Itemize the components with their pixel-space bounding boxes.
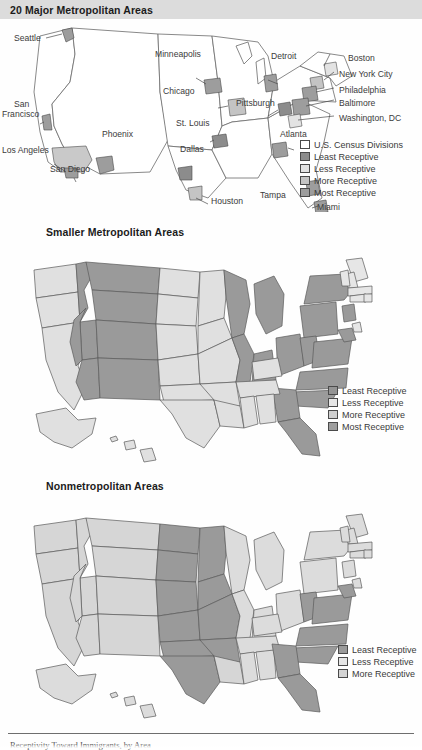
legend-item: U.S. Census Divisions [300, 139, 403, 150]
legend-item: Less Receptive [338, 656, 417, 667]
legend-item: Least Receptive [300, 151, 403, 162]
state-AL [256, 394, 276, 424]
state-AK [36, 664, 96, 704]
state-VT [340, 526, 350, 542]
state-NJ [342, 304, 356, 322]
state-HI-2 [124, 696, 136, 706]
state-WY [92, 546, 158, 580]
legend-label: More Receptive [314, 176, 377, 186]
state-UT [80, 576, 98, 616]
state-NM [98, 614, 160, 656]
footer-rule [8, 733, 414, 734]
legend-major-metro: U.S. Census DivisionsLeast ReceptiveLess… [300, 139, 403, 199]
legend-swatch-icon [300, 176, 310, 185]
city-label-philadelphia: Philadelphia [339, 86, 386, 96]
legend-item: More Receptive [300, 175, 403, 186]
state-HI-1 [110, 436, 118, 442]
map-nonmetro [0, 498, 422, 722]
state-HI-2 [124, 440, 136, 450]
legend-swatch-icon [328, 398, 338, 407]
state-CO [96, 320, 158, 360]
legend-item: Less Receptive [328, 397, 407, 408]
legend-swatch-icon [300, 188, 310, 197]
state-MT [86, 262, 160, 294]
city-label-phoenix: Phoenix [102, 130, 133, 140]
panel-title-nonmetro: Nonmetropolitan Areas [46, 480, 164, 492]
metro-baltimore [292, 98, 310, 116]
state-HI-3 [140, 704, 156, 718]
state-SC [292, 646, 338, 664]
panel-nonmetro: Nonmetropolitan Areas [0, 470, 422, 728]
state-MI [254, 276, 284, 334]
state-ND [158, 268, 200, 298]
legend-swatch-icon [300, 164, 310, 173]
legend-item: Most Receptive [328, 421, 407, 432]
legend-label: Less Receptive [342, 398, 404, 408]
panel-title-smaller-metro: Smaller Metropolitan Areas [46, 226, 184, 238]
legend-swatch-icon [338, 645, 348, 654]
metro-pittsburgh [278, 102, 292, 116]
city-label-boston: Boston [348, 54, 375, 64]
state-KY [252, 614, 282, 636]
legend-label: Least Receptive [314, 152, 379, 162]
state-VT [340, 270, 350, 286]
metro-dallas [178, 166, 192, 180]
city-label-washington-dc: Washington, DC [339, 114, 401, 124]
city-label-new-york-city: New York City [339, 70, 393, 80]
state-MI [254, 532, 284, 590]
state-GA [272, 644, 300, 678]
state-MN [198, 526, 226, 582]
legend-swatch-icon [338, 657, 348, 666]
legend-nonmetro: Least ReceptiveLess ReceptiveMore Recept… [338, 644, 417, 680]
state-MT [86, 518, 160, 550]
state-PA [300, 302, 338, 338]
legend-label: Most Receptive [314, 188, 376, 198]
state-PA [300, 558, 338, 594]
city-label-pittsburgh: Pittsburgh [236, 99, 275, 109]
state-NM [98, 358, 160, 400]
legend-swatch-icon [328, 386, 338, 395]
city-label-tampa: Tampa [260, 191, 286, 201]
metro-boston [324, 62, 338, 76]
legend-smaller-metro: Least ReceptiveLess ReceptiveMore Recept… [328, 385, 407, 433]
legend-item: Least Receptive [328, 385, 407, 396]
city-label-baltimore: Baltimore [339, 99, 375, 109]
panel-major-metro: 20 Major Metropolitan Areas [0, 0, 422, 222]
metro-minneapolis [204, 78, 222, 94]
city-label-atlanta: Atlanta [280, 130, 307, 140]
state-FL [278, 674, 320, 712]
legend-item: Less Receptive [300, 163, 403, 174]
metro-st-louis [212, 134, 228, 148]
city-label-chicago: Chicago [163, 87, 195, 97]
metro-atlanta [272, 142, 288, 158]
legend-label: Least Receptive [352, 645, 417, 655]
city-label-detroit: Detroit [271, 52, 296, 62]
state-RI [364, 294, 372, 302]
state-MN [198, 270, 226, 326]
state-HI-1 [110, 692, 118, 698]
state-VA [312, 338, 352, 368]
legend-swatch-icon [328, 410, 338, 419]
metro-washington-dc [288, 114, 302, 128]
state-HI-3 [140, 448, 156, 462]
city-label-francisco: Francisco [2, 110, 39, 120]
legend-label: U.S. Census Divisions [314, 140, 403, 150]
panel-smaller-metro: Smaller Metropolitan Areas [0, 222, 422, 470]
legend-item: More Receptive [328, 409, 407, 420]
state-SD [156, 550, 198, 582]
legend-swatch-icon [300, 152, 310, 161]
legend-swatch-icon [338, 669, 348, 678]
legend-label: More Receptive [352, 669, 415, 679]
state-DE [352, 578, 362, 588]
legend-item: More Receptive [338, 668, 417, 679]
state-RI [364, 550, 372, 558]
state-ND [158, 524, 200, 554]
state-AK [36, 408, 96, 448]
legend-swatch-icon [328, 422, 338, 431]
city-label-st-louis: St. Louis [176, 119, 209, 129]
state-VA [312, 594, 352, 624]
legend-item: Least Receptive [338, 644, 417, 655]
state-NJ [342, 560, 356, 578]
state-KS [158, 610, 200, 642]
